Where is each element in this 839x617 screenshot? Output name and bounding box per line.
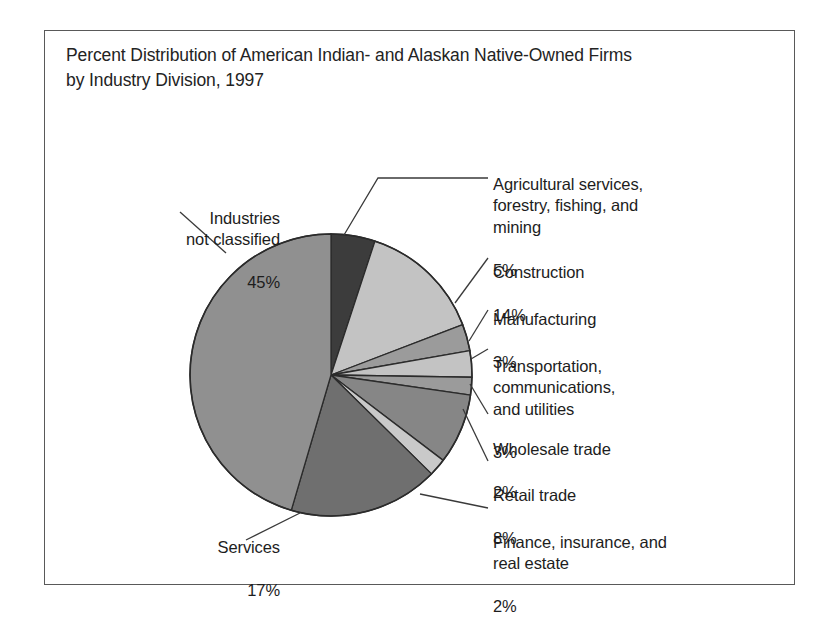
label-finance-insurance-real-estate-value: 2% [493, 596, 743, 617]
figure-title-line-2: by Industry Division, 1997 [66, 68, 766, 93]
label-manufacturing-name: Manufacturing [493, 309, 743, 331]
label-transportation-name: Transportation, communications, and util… [493, 356, 743, 421]
label-agricultural-services-name: Agricultural services, forestry, fishing… [493, 174, 743, 239]
label-industries-not-classified: Industries not classified 45% [95, 186, 280, 315]
label-construction-name: Construction [493, 262, 743, 284]
label-wholesale-trade-name: Wholesale trade [493, 439, 743, 461]
label-finance-insurance-real-estate: Finance, insurance, and real estate 2% [493, 510, 743, 617]
label-industries-not-classified-name: Industries not classified [95, 208, 280, 251]
label-services-name: Services [110, 537, 280, 559]
label-services: Services 17% [110, 515, 280, 617]
figure-title: Percent Distribution of American Indian-… [66, 43, 766, 93]
label-finance-insurance-real-estate-name: Finance, insurance, and real estate [493, 532, 743, 575]
label-services-value: 17% [110, 580, 280, 602]
label-industries-not-classified-value: 45% [95, 272, 280, 294]
label-retail-trade-name: Retail trade [493, 485, 743, 507]
figure-title-line-1: Percent Distribution of American Indian-… [66, 43, 766, 68]
